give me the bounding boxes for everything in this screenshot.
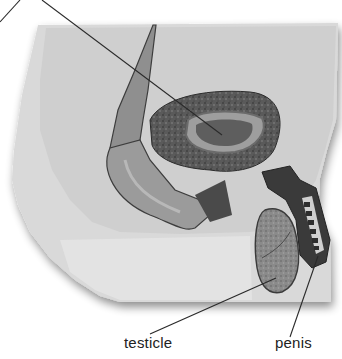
leader-line-top-left bbox=[0, 0, 20, 22]
label-testicle: testicle bbox=[124, 334, 172, 351]
gland-mass bbox=[150, 91, 280, 171]
anatomy-diagram bbox=[0, 0, 342, 359]
label-penis: penis bbox=[275, 334, 312, 351]
